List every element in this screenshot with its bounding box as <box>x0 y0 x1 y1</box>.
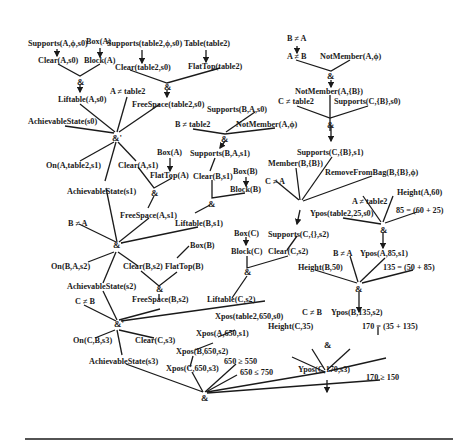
node-supports-b-a-s1: Supports(B,A,s1) <box>190 149 250 158</box>
node-achievable-s2: AchievableState(s2) <box>67 282 136 291</box>
node-supports-c-b-s0: Supports(C,{B},s0) <box>334 97 401 106</box>
node-achievable-s3: AchievableState(s3) <box>89 357 158 366</box>
node-box-a-2: Box(A) <box>157 148 182 157</box>
node-notmember-a-b: NotMember(A,{B}) <box>295 87 363 96</box>
node-member-b-b: Member(B,{B}) <box>268 159 323 168</box>
node-clear-table2-s0: Clear(table2,s0) <box>115 63 171 72</box>
node-a-neq-table2: A ≠ table2 <box>110 87 145 96</box>
and-junction: & <box>355 284 363 294</box>
node-clear-c-s2: Clear(C,s2) <box>268 247 309 256</box>
node-b-neq-a: B ≠ A <box>68 219 88 228</box>
node-liftable-c-s2: Liftable(C,s2) <box>207 295 256 304</box>
node-c-neq-a: C ≠ A <box>265 177 285 186</box>
node-block-b: Block(B) <box>230 185 261 194</box>
node-supports-table2-phi-s0: Supports(table2,ϕ,s0) <box>107 39 182 48</box>
node-b-neq-a-top: B ≠ A <box>287 34 307 43</box>
node-clear-b-s1: Clear(B,s1) <box>193 172 233 181</box>
node-notmember-a-phi: NotMember(A,ϕ) <box>236 120 298 129</box>
and-junction: & <box>208 199 216 209</box>
node-achievable-s1: AchievableState(s1) <box>67 187 136 196</box>
and-junction: & <box>324 340 332 350</box>
and-prime-junction: &' <box>113 240 123 250</box>
node-height-a-60: Height(A,60) <box>397 188 443 197</box>
node-labels: Box(A) Supports(A,ϕ,s0) Supports(table2,… <box>28 34 444 403</box>
node-ge-550: 650 ≥ 550 <box>224 357 257 366</box>
and-junction: & <box>77 77 85 87</box>
and-prime-junction: &' <box>112 133 122 143</box>
node-ge-150: 170 ≥ 150 <box>366 373 399 382</box>
and-junction: & <box>221 134 229 144</box>
and-junction: & <box>151 188 159 198</box>
node-achievable-s0: AchievableState(s0) <box>28 117 97 126</box>
node-freespace-b-s2: FreeSpace(B,s2) <box>132 295 189 304</box>
node-c-neq-b-r: C ≠ B <box>302 308 323 317</box>
node-ypos-table2: Ypos(table2,25,s0) <box>310 209 374 218</box>
node-b-neq-a-r: B ≠ A <box>333 249 353 258</box>
and-junction: & <box>244 267 252 277</box>
and-prime-junction: &' <box>114 319 124 329</box>
node-supports-a-phi-s0: Supports(A,ϕ,s0) <box>28 39 88 48</box>
node-c-neq-table2: C ≠ table2 <box>278 97 314 106</box>
node-box-b-2: Box(B) <box>190 241 215 250</box>
node-freespace-a-s1: FreeSpace(A,s1) <box>120 211 177 220</box>
node-supports-c-empty-s2: Supports(C,{},s2) <box>268 230 329 239</box>
node-clear-c-s3: Clear(C,s3) <box>135 336 176 345</box>
node-a-neq-b: A ≠ B <box>287 52 307 61</box>
node-c-neq-b: C ≠ B <box>75 297 96 306</box>
final-and-junction: & <box>201 393 209 403</box>
node-flattop-b: FlatTop(B) <box>165 262 204 271</box>
node-xpos-b-650-s2: Xpos(B,650,s2) <box>176 347 229 356</box>
node-xpos-c-650-s3: Xpos(C,650,s3) <box>166 364 219 373</box>
node-removefrombag: RemoveFromBag(B,{B},ϕ) <box>325 168 419 177</box>
node-ypos-a-85-s1: Ypos(A,85,s1) <box>360 249 408 258</box>
node-flattop-a: FlatTop(A) <box>150 171 189 180</box>
and-junction: & <box>327 71 335 81</box>
node-flattop-table2: FlatTop(table2) <box>188 62 243 71</box>
node-on-b-a-s2: On(B,A,s2) <box>51 262 90 271</box>
node-table-table2: Table(table2) <box>184 39 230 48</box>
node-liftable-a-s0: Liftable(A,s0) <box>58 95 107 104</box>
node-eq-85: 85 = (60 + 25) <box>396 206 444 215</box>
node-notmember-a-phi-top: NotMember(A,ϕ) <box>320 52 382 61</box>
node-eq-135: 135 = (50 + 85) <box>383 263 435 272</box>
node-clear-a-s1: Clear(A,s1) <box>118 161 159 170</box>
node-supports-b-a-s0: Supports(B,A,s0) <box>207 105 267 114</box>
node-clear-b-s2: Clear(B,s2) <box>123 262 163 271</box>
node-ypos-c-170-s3: Ypos(C,170,s3) <box>298 365 350 374</box>
node-xpos-a-650-s1: Xpos(A,650,s1) <box>196 329 249 338</box>
node-ypos-b-135-s2: Ypos(B,135,s2) <box>331 308 383 317</box>
node-b-neq-table2: B ≠ table2 <box>175 120 210 129</box>
node-supports-c-b-s1: Supports(C,{B},s1) <box>297 148 364 157</box>
node-height-c-35: Height(C,35) <box>268 322 314 331</box>
and-junction: & <box>156 284 164 294</box>
node-height-b-50: Height(B,50) <box>298 263 343 272</box>
node-eq-170: 170 = (35 + 135) <box>362 322 418 331</box>
node-clear-a-s0: Clear(A,s0) <box>38 56 79 65</box>
proof-tree-diagram: Box(A) Supports(A,ϕ,s0) Supports(table2,… <box>0 0 471 444</box>
node-box-c: Box(C) <box>234 229 259 238</box>
and-junction: & <box>327 120 335 130</box>
and-junction: & <box>380 225 388 235</box>
node-box-b: Box(B) <box>233 167 258 176</box>
node-liftable-b-s1: Liftable(B,s1) <box>175 219 223 228</box>
node-on-c-b-s3: On(C,B,s3) <box>73 336 112 345</box>
node-xpos-table2: Xpos(table2,650,s0) <box>215 312 284 321</box>
node-le-750: 650 ≤ 750 <box>240 368 273 377</box>
node-block-a: Block(A) <box>84 56 116 65</box>
node-a-neq-table2-r: A ≠ table2 <box>352 197 387 206</box>
node-on-a-table2-s1: On(A,table2,s1) <box>46 161 101 170</box>
node-freespace-table2-s0: FreeSpace(table2,s0) <box>132 100 205 109</box>
node-block-c: Block(C) <box>231 247 263 256</box>
and-junction: & <box>164 82 172 92</box>
